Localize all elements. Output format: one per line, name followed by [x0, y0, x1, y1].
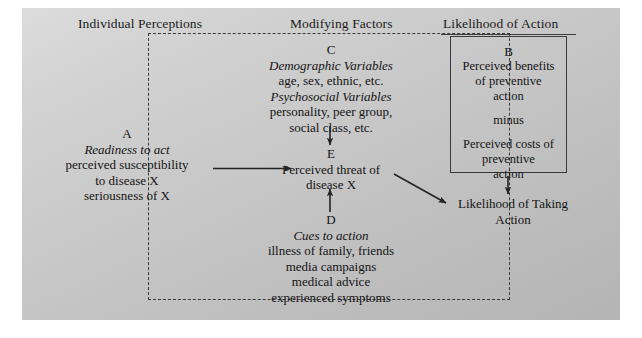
outcome-line-2: Action — [448, 212, 578, 228]
block-c-psychosocial-heading: Psychosocial Variables — [238, 89, 424, 105]
block-e-line-2: disease X — [260, 177, 402, 193]
block-a-line-3: seriousness of X — [34, 188, 220, 204]
block-d-cues-to-action: D Cues to action illness of family, frie… — [224, 212, 438, 305]
block-d-italic-line: Cues to action — [224, 228, 438, 244]
block-b-benefits-line-1: Perceived benefits — [452, 59, 565, 74]
block-a-italic-line: Readiness to act — [34, 142, 220, 158]
block-c-demographic-heading: Demographic Variables — [238, 58, 424, 74]
block-b-label: B — [452, 44, 565, 59]
block-a-label: A — [34, 126, 220, 142]
block-e-perceived-threat: E Perceived threat of disease X — [260, 146, 402, 193]
block-c-label: C — [238, 42, 424, 58]
column-header-likelihood-of-action: Likelihood of Action — [443, 16, 558, 32]
block-e-label: E — [260, 146, 402, 162]
block-c-modifying-variables: C Demographic Variables age, sex, ethnic… — [238, 42, 424, 135]
block-b-costs-line-3: action — [452, 167, 565, 182]
block-b-perceived-benefits-costs: B Perceived benefits of preventive actio… — [452, 44, 565, 182]
block-e-line-1: Perceived threat of — [260, 162, 402, 178]
outcome-line-1: Likelihood of Taking — [448, 196, 578, 212]
column-header-individual-perceptions: Individual Perceptions — [78, 16, 202, 32]
column-header-modifying-factors: Modifying Factors — [290, 16, 393, 32]
block-d-line-1: illness of family, friends — [224, 243, 438, 259]
block-b-benefits-line-2: of preventive — [452, 74, 565, 89]
block-d-line-2: media campaigns — [224, 259, 438, 275]
block-a-line-2: to disease X — [34, 173, 220, 189]
block-b-spacer-bottom — [452, 128, 565, 137]
block-b-spacer-top — [452, 104, 565, 113]
block-b-connector: minus — [452, 113, 565, 128]
block-d-line-4: experienced symptoms — [224, 290, 438, 306]
block-a-readiness-to-act: A Readiness to act perceived susceptibil… — [34, 126, 220, 204]
block-d-line-3: medical advice — [224, 274, 438, 290]
block-outcome-likelihood-of-taking-action: Likelihood of Taking Action — [448, 196, 578, 227]
health-belief-model-figure: Individual Perceptions Modifying Factors… — [0, 0, 642, 338]
block-c-demographic-items: age, sex, ethnic, etc. — [238, 73, 424, 89]
block-c-psychosocial-items-1: personality, peer group, — [238, 104, 424, 120]
block-c-psychosocial-items-2: social class, etc. — [238, 120, 424, 136]
block-b-benefits-line-3: action — [452, 89, 565, 104]
block-d-label: D — [224, 212, 438, 228]
block-b-costs-line-2: preventive — [452, 152, 565, 167]
block-a-line-1: perceived susceptibility — [34, 157, 220, 173]
block-b-costs-line-1: Perceived costs of — [452, 137, 565, 152]
